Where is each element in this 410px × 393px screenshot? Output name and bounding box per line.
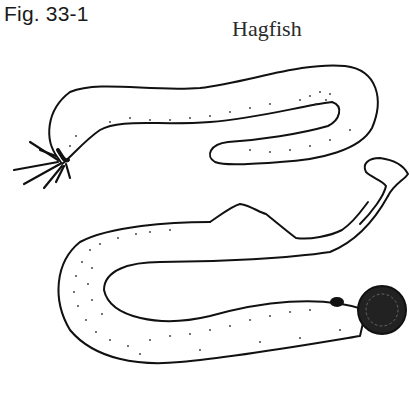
tail-outline (360, 158, 408, 224)
eye-spot (330, 297, 344, 307)
upper-body-outline (49, 65, 377, 164)
hagfish-illustration (0, 0, 410, 393)
fin-fold-outline (210, 202, 368, 239)
lower-body-outline (59, 196, 388, 363)
mouth-disc (358, 286, 406, 334)
barbels-icon (14, 142, 70, 188)
